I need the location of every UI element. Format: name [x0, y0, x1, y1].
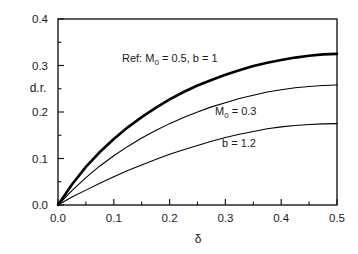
x-tick-label: 0.0	[50, 212, 66, 224]
y-tick-label: 0.4	[32, 13, 49, 25]
x-tick-label: 0.4	[273, 212, 290, 224]
y-tick-label: 0.2	[32, 106, 48, 118]
y-tick-label: 0.1	[32, 153, 48, 165]
chart-canvas: 0.00.10.20.30.40.5 0.00.10.20.30.4 Ref: …	[0, 0, 358, 254]
x-axis-title: δ	[195, 232, 202, 246]
x-tick-label: 0.3	[217, 212, 233, 224]
x-tick-label: 0.1	[106, 212, 122, 224]
x-tick-label: 0.5	[329, 212, 345, 224]
chart-figure: 0.00.10.20.30.40.5 0.00.10.20.30.4 Ref: …	[0, 0, 358, 254]
b-annotation: b = 1.2	[222, 137, 256, 149]
y-tick-label: 0.0	[32, 199, 48, 211]
x-tick-label: 0.2	[162, 212, 178, 224]
y-axis-title: d.r.	[30, 81, 47, 95]
y-tick-label: 0.3	[32, 60, 48, 72]
